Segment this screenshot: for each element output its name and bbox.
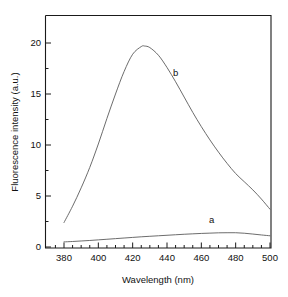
x-tick-label: 420: [125, 252, 141, 263]
x-tick-label: 400: [90, 252, 106, 263]
x-axis-title: Wavelength (nm): [122, 274, 194, 285]
series-line-b: [64, 46, 270, 223]
x-axis-ticks: [55, 243, 270, 249]
figure-container: 05101520 380400420440460480500 b a Wavel…: [0, 0, 288, 297]
data-series-group: [64, 46, 270, 242]
y-tick-label: 0: [36, 241, 41, 252]
x-tick-label: 440: [159, 252, 175, 263]
y-tick-label: 15: [30, 88, 41, 99]
x-tick-label: 460: [193, 252, 209, 263]
x-tick-label: 480: [228, 252, 244, 263]
x-tick-label: 380: [56, 252, 72, 263]
series-line-a: [64, 233, 270, 242]
y-axis-ticks: [46, 43, 52, 247]
x-tick-labels: 380400420440460480500: [56, 252, 278, 263]
plot-frame: [46, 16, 272, 249]
y-tick-label: 10: [30, 139, 41, 150]
y-tick-label: 5: [36, 190, 41, 201]
y-tick-labels: 05101520: [30, 37, 41, 252]
series-annotation-a: a: [209, 214, 215, 225]
y-axis-title: Fluorescence intensity (a.u.): [9, 72, 20, 191]
y-tick-label: 20: [30, 37, 41, 48]
fluorescence-spectrum-chart: 05101520 380400420440460480500 b a Wavel…: [0, 0, 288, 297]
x-tick-label: 500: [262, 252, 278, 263]
series-annotation-b: b: [173, 67, 178, 78]
